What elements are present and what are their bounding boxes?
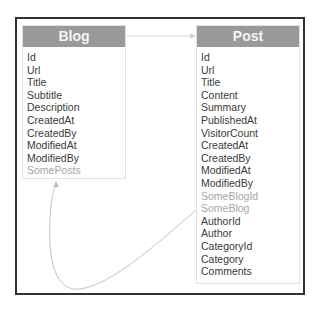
property: Comments <box>201 265 299 278</box>
property: Title <box>201 76 299 89</box>
property: Author <box>201 227 299 240</box>
property: Id <box>201 51 299 64</box>
navigation-property: SomePosts <box>27 164 125 177</box>
entity-header: Blog <box>23 26 125 47</box>
property: CreatedAt <box>27 114 125 127</box>
property: VisitorCount <box>201 127 299 140</box>
property: Summary <box>201 101 299 114</box>
property: Url <box>201 64 299 77</box>
entity-blog[interactable]: Blog IdUrlTitleSubtitleDescriptionCreate… <box>22 25 126 179</box>
property: CreatedBy <box>201 152 299 165</box>
property: Id <box>27 51 125 64</box>
property-list: IdUrlTitleSubtitleDescriptionCreatedAtCr… <box>23 47 125 179</box>
property: Content <box>201 89 299 102</box>
property-list: IdUrlTitleContentSummaryPublishedAtVisit… <box>197 47 299 280</box>
navigation-property: SomeBlog <box>201 202 299 215</box>
navigation-property: SomeBlogId <box>201 190 299 203</box>
property: ModifiedAt <box>201 164 299 177</box>
property: AuthorId <box>201 215 299 228</box>
property: CreatedBy <box>27 127 125 140</box>
property: Category <box>201 253 299 266</box>
entity-header: Post <box>197 26 299 47</box>
property: CreatedAt <box>201 139 299 152</box>
property: Title <box>27 76 125 89</box>
property: Description <box>27 101 125 114</box>
property: CategoryId <box>201 240 299 253</box>
property: Url <box>27 64 125 77</box>
property: ModifiedBy <box>27 152 125 165</box>
property: ModifiedBy <box>201 177 299 190</box>
property: PublishedAt <box>201 114 299 127</box>
property: ModifiedAt <box>27 139 125 152</box>
property: Subtitle <box>27 89 125 102</box>
post-to-blog-curved-connector <box>50 184 196 289</box>
entity-post[interactable]: Post IdUrlTitleContentSummaryPublishedAt… <box>196 25 300 284</box>
arrowhead-icon <box>54 181 59 187</box>
